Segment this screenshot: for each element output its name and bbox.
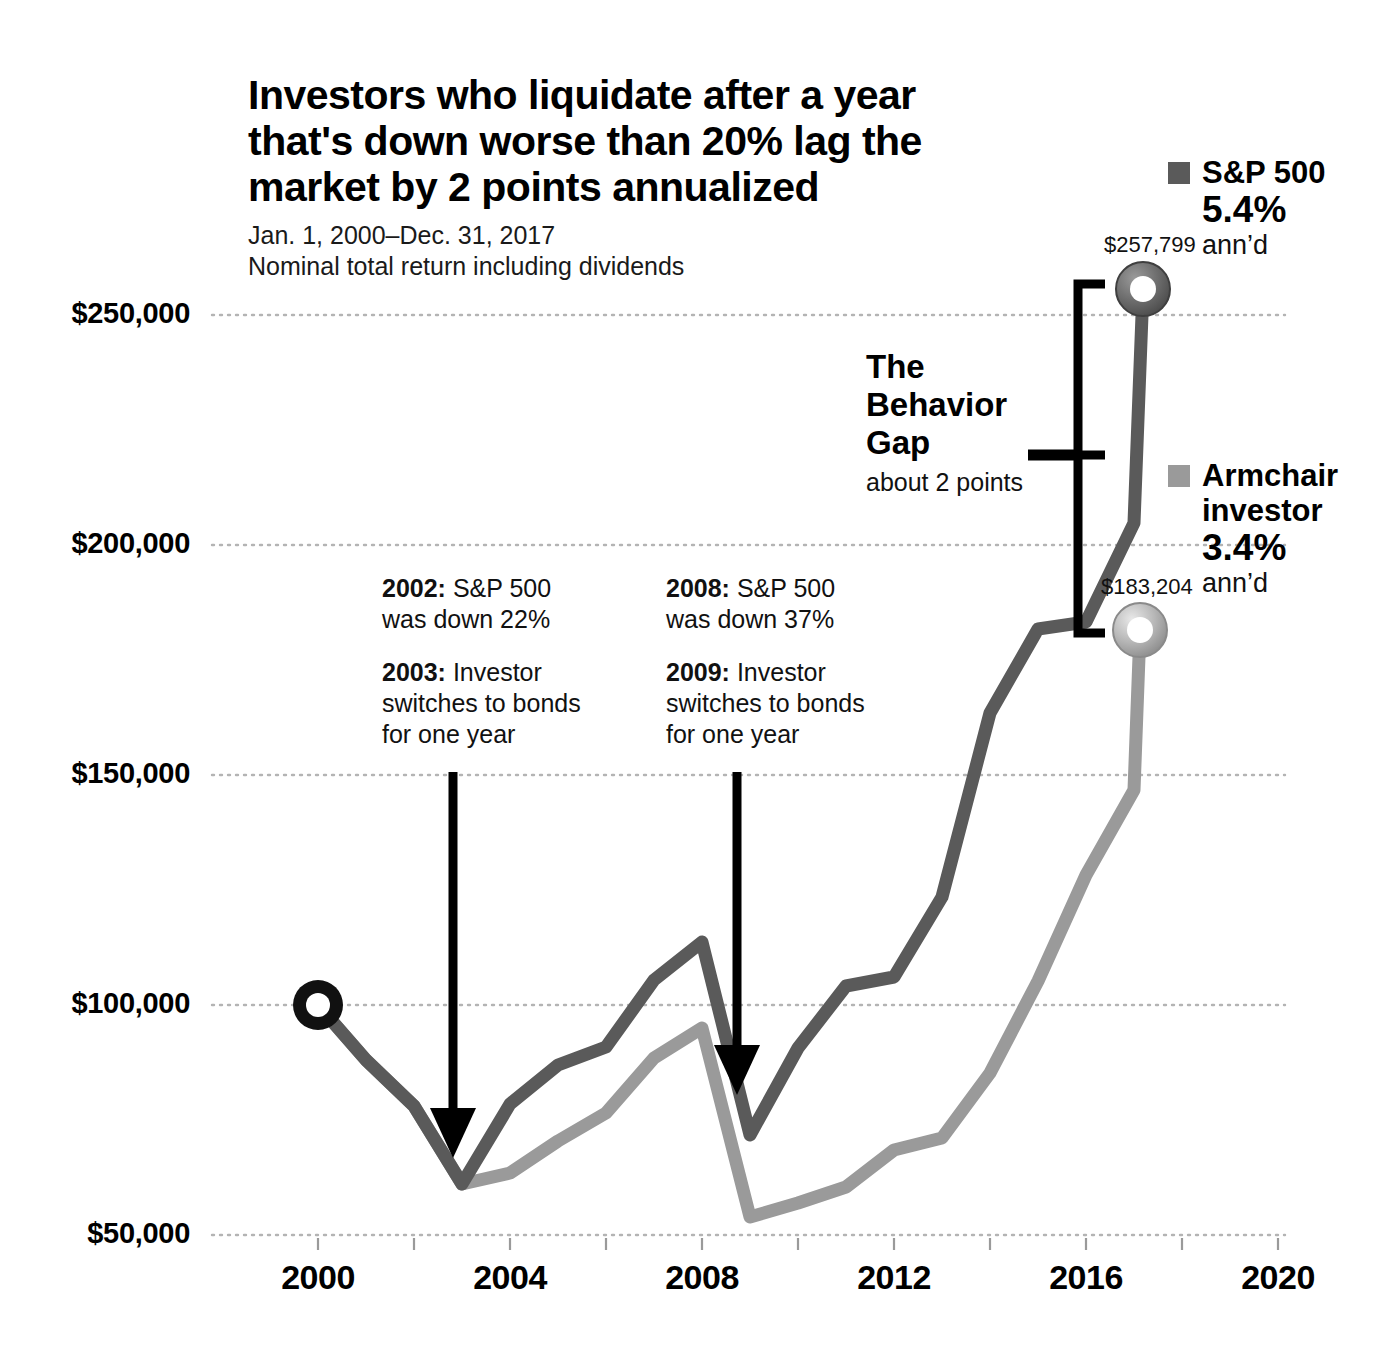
chart-canvas: Investors who liquidate after a year tha…	[0, 0, 1385, 1357]
legend-label-armchair-investor-line1: Armchair	[1202, 458, 1338, 493]
callout-note-2002-line2: was down 22%	[382, 604, 627, 635]
callout-note-2003-year: 2003:	[382, 658, 446, 686]
end-value-label-sp-500: $257,799	[1104, 232, 1196, 258]
callout-note-2003-line3: for one year	[382, 719, 627, 750]
legend-value-sp-500: 5.4%	[1202, 190, 1378, 230]
callout-note-2002-year: 2002:	[382, 574, 446, 602]
callout-note-2009-line3: for one year	[666, 719, 911, 750]
x-tick-label-2008: 2008	[632, 1258, 772, 1297]
gridlines	[212, 315, 1285, 1235]
page-title: Investors who liquidate after a year tha…	[248, 72, 988, 210]
legend-head-sp-500: S&P 500	[1168, 155, 1378, 190]
chart-subtitle-basis: Nominal total return including dividends	[248, 251, 988, 282]
callout-note-2008-year: 2008:	[666, 574, 730, 602]
x-tick-label-2020: 2020	[1208, 1258, 1348, 1297]
x-tick-label-2004: 2004	[440, 1258, 580, 1297]
behavior-gap-label: The Behavior Gap about 2 points	[866, 348, 1056, 497]
legend-item-armchair-investor[interactable]: Armchair investor 3.4% ann’d	[1168, 458, 1378, 599]
legend-annd-sp-500: ann’d	[1202, 230, 1378, 261]
legend-value-armchair-investor: 3.4%	[1202, 528, 1378, 568]
marker-end-armchair-investor	[1113, 603, 1167, 657]
legend-swatch-sp-500-icon	[1168, 162, 1190, 184]
behavior-gap-subtitle: about 2 points	[866, 467, 1056, 497]
callout-note-2002-line1: 2002: S&P 500	[382, 573, 627, 604]
y-tick-label-100000: $100,000	[0, 987, 190, 1020]
y-tick-label-250000: $250,000	[0, 297, 190, 330]
chart-subtitle-daterange: Jan. 1, 2000–Dec. 31, 2017	[248, 220, 988, 251]
behavior-gap-title: The Behavior Gap	[866, 348, 1056, 462]
callout-note-2003-line1: 2003: Investor	[382, 657, 627, 688]
x-tick-label-2016: 2016	[1016, 1258, 1156, 1297]
y-tick-label-50000: $50,000	[0, 1217, 190, 1250]
marker-end-sp-500	[1116, 262, 1170, 316]
callout-arrow-2009	[714, 772, 760, 1095]
callout-note-2003-line2: switches to bonds	[382, 688, 627, 719]
x-tick-label-2012: 2012	[824, 1258, 964, 1297]
y-tick-label-200000: $200,000	[0, 527, 190, 560]
callout-note-2002-text: S&P 500	[446, 574, 551, 602]
callout-note-2008-line1: 2008: S&P 500	[666, 573, 911, 604]
callout-note-2002: 2002: S&P 500 was down 22% 2003: Investo…	[382, 573, 627, 750]
callout-note-2009-line1: 2009: Investor	[666, 657, 911, 688]
callout-note-2008-text: S&P 500	[730, 574, 835, 602]
legend-label-armchair-investor: Armchair investor	[1202, 458, 1338, 528]
callout-note-2009-text: Investor	[730, 658, 826, 686]
legend-label-sp-500: S&P 500	[1202, 155, 1326, 190]
legend-item-sp-500[interactable]: S&P 500 5.4% ann’d	[1168, 155, 1378, 261]
callout-note-2008-line2: was down 37%	[666, 604, 911, 635]
callout-note-2008: 2008: S&P 500 was down 37% 2009: Investo…	[666, 573, 911, 750]
callout-arrow-2003	[430, 772, 476, 1158]
callout-note-2009-year: 2009:	[666, 658, 730, 686]
x-tick-label-2000: 2000	[248, 1258, 388, 1297]
callout-note-2003-text: Investor	[446, 658, 542, 686]
marker-start-2000	[293, 980, 343, 1030]
y-tick-label-150000: $150,000	[0, 757, 190, 790]
legend-swatch-armchair-investor-icon	[1168, 465, 1190, 487]
end-value-label-armchair-investor: $183,204	[1101, 574, 1193, 600]
x-axis-ticks	[318, 1238, 1278, 1250]
legend-label-armchair-investor-line2: investor	[1202, 493, 1338, 528]
callout-note-2009-line2: switches to bonds	[666, 688, 911, 719]
legend-annd-armchair-investor: ann’d	[1202, 568, 1378, 599]
legend-head-armchair-investor: Armchair investor	[1168, 458, 1378, 528]
title-block: Investors who liquidate after a year tha…	[248, 72, 988, 282]
